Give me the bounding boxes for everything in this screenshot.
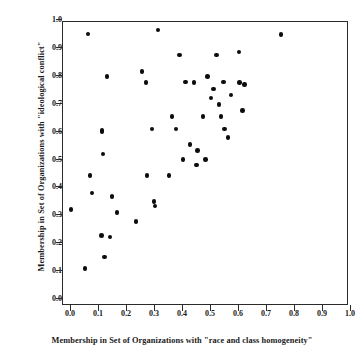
data-point xyxy=(69,207,74,212)
x-tick-mark xyxy=(126,305,127,311)
data-point xyxy=(201,114,206,119)
data-point xyxy=(100,130,105,135)
data-point xyxy=(237,80,242,85)
data-point xyxy=(214,53,219,58)
x-tick-mark xyxy=(210,305,211,311)
x-tick-mark xyxy=(350,305,351,311)
data-point xyxy=(209,96,214,101)
x-tick-mark xyxy=(266,305,267,311)
data-point xyxy=(156,28,161,33)
data-point xyxy=(167,173,172,178)
data-point xyxy=(237,50,242,55)
x-tick-mark xyxy=(154,305,155,311)
data-point xyxy=(194,163,199,168)
data-point xyxy=(226,135,231,140)
data-point xyxy=(101,152,106,157)
data-point xyxy=(188,142,193,147)
data-point xyxy=(205,74,210,79)
data-point xyxy=(221,80,226,85)
data-point xyxy=(192,80,197,85)
data-point xyxy=(88,173,93,178)
data-point xyxy=(108,235,113,240)
x-tick-mark xyxy=(294,305,295,311)
data-point xyxy=(86,32,91,37)
data-point xyxy=(144,80,149,85)
data-point xyxy=(211,87,216,92)
x-axis-label: Membership in Set of Organizations with … xyxy=(0,336,364,345)
data-point xyxy=(110,194,115,199)
data-point xyxy=(217,102,222,107)
data-point xyxy=(115,210,120,215)
x-tick-mark xyxy=(322,305,323,311)
data-point xyxy=(99,233,104,238)
data-point xyxy=(105,74,110,79)
data-point xyxy=(140,69,145,74)
x-tick-mark xyxy=(182,305,183,311)
data-point xyxy=(229,93,234,98)
data-point xyxy=(240,108,245,113)
data-point xyxy=(152,199,157,204)
x-tick-mark xyxy=(238,305,239,311)
data-point xyxy=(170,114,175,119)
y-tick-mark xyxy=(56,19,62,20)
scatter-plot-figure: Membership in Set of Organizations with … xyxy=(0,0,364,357)
data-point xyxy=(279,32,284,37)
data-point xyxy=(219,114,224,119)
data-point xyxy=(134,219,139,224)
data-point xyxy=(203,157,208,162)
data-point xyxy=(183,80,188,85)
data-point xyxy=(90,191,95,196)
data-point xyxy=(242,82,247,87)
data-point xyxy=(153,204,158,209)
data-point xyxy=(174,127,179,132)
x-tick-mark xyxy=(70,305,71,311)
data-point xyxy=(222,127,227,132)
plot-area xyxy=(62,21,348,305)
data-point xyxy=(177,53,182,58)
data-point xyxy=(102,255,107,260)
x-tick-mark xyxy=(98,305,99,311)
data-point xyxy=(83,266,88,271)
data-point xyxy=(195,148,200,153)
data-point xyxy=(181,157,186,162)
data-point xyxy=(145,173,150,178)
data-point xyxy=(150,127,155,132)
